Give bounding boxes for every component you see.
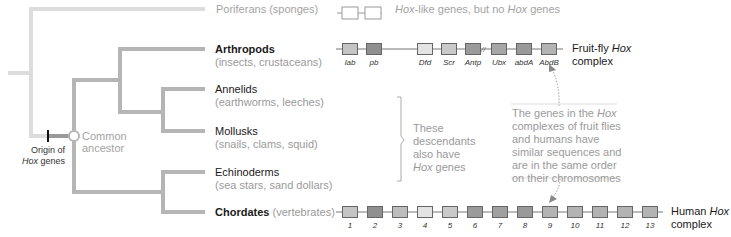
gene-label: abdA xyxy=(511,58,537,67)
gene-box-pb xyxy=(366,43,382,55)
gene-label: 9 xyxy=(537,221,563,230)
common-ancestor-label: Common ancestor xyxy=(82,130,127,154)
poriferan-genes-caption: Hox-like genes, but no Hox genes xyxy=(395,3,560,15)
gene-box-2 xyxy=(367,206,383,218)
gene-label: 2 xyxy=(362,221,388,230)
gene-box-1 xyxy=(342,206,358,218)
taxon-echinoderms: Echinoderms xyxy=(215,166,279,178)
gene-box-Antp xyxy=(465,43,481,55)
gene-box-4 xyxy=(417,206,433,218)
gene-box-abdA xyxy=(516,43,532,55)
gene-box-Dfd xyxy=(417,43,433,55)
taxon-chordates: Chordates (vertebrates) xyxy=(215,206,335,218)
gene-box-13 xyxy=(642,206,658,218)
gene-label: 3 xyxy=(387,221,413,230)
gene-label: 6 xyxy=(462,221,488,230)
common-ancestor-node xyxy=(69,131,79,141)
gene-box-lab xyxy=(342,43,358,55)
fruit-fly-complex-label: Fruit-fly Hox complex xyxy=(572,42,631,68)
descendants-bracket xyxy=(397,97,404,181)
gene-box-3 xyxy=(392,206,408,218)
poriferan-lineage xyxy=(8,9,205,138)
gene-label: 11 xyxy=(587,221,613,230)
gene-label: 1 xyxy=(337,221,363,230)
gene-label: AbdB xyxy=(536,58,562,67)
gene-box-Ubx xyxy=(491,43,507,55)
gene-box-AbdB xyxy=(541,43,557,55)
gene-box-11 xyxy=(592,206,608,218)
poriferan-hox-like-genes xyxy=(337,7,382,19)
taxon-arthropods-sub: (insects, crustaceans) xyxy=(215,56,322,68)
gene-box-5 xyxy=(442,206,458,218)
taxon-mollusks: Mollusks xyxy=(215,125,258,137)
taxon-annelids-sub: (earthworms, leeches) xyxy=(215,96,324,108)
gene-box-7 xyxy=(492,206,508,218)
gene-label: 10 xyxy=(562,221,588,230)
comparison-note: The genes in the Hox complexes of fruit … xyxy=(512,107,621,185)
taxon-echinoderms-sub: (sea stars, sand dollars) xyxy=(215,179,332,191)
origin-of-hox-label: Origin of Hox genes xyxy=(10,145,65,167)
gene-label: Ubx xyxy=(486,58,512,67)
gene-label: Dfd xyxy=(412,58,438,67)
gene-label: 7 xyxy=(487,221,513,230)
gene-label: 12 xyxy=(612,221,638,230)
taxon-poriferans: Poriferans (sponges) xyxy=(216,3,318,15)
gene-box-8 xyxy=(517,206,533,218)
gene-box-6 xyxy=(467,206,483,218)
gene-label: lab xyxy=(337,58,363,67)
gene-box-9 xyxy=(542,206,558,218)
taxon-mollusks-sub: (snails, clams, squid) xyxy=(215,138,318,150)
gene-label: 5 xyxy=(437,221,463,230)
gene-label: 4 xyxy=(412,221,438,230)
gene-label: 13 xyxy=(637,221,663,230)
gene-label: pb xyxy=(361,58,387,67)
gene-box-10 xyxy=(567,206,583,218)
descendants-note: These descendants also have Hox genes xyxy=(413,122,475,174)
gene-box-Scr xyxy=(441,43,457,55)
gene-label: Antp xyxy=(460,58,486,67)
arrow-up-dotted xyxy=(552,69,559,106)
gene-label: 8 xyxy=(512,221,538,230)
taxon-annelids: Annelids xyxy=(215,83,257,95)
human-complex-label: Human Hox complex xyxy=(671,205,729,231)
taxon-arthropods: Arthropods xyxy=(215,43,275,55)
gene-label: Scr xyxy=(436,58,462,67)
gene-box-12 xyxy=(617,206,633,218)
